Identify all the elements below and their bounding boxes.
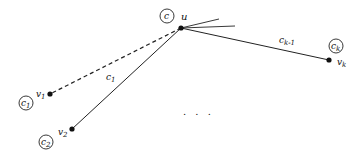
diagram-canvas: c u c1 v1 c2 v2 ck vk c1 ck-1 . . . xyxy=(0,0,361,160)
edge-u-vk xyxy=(181,28,329,60)
edge-u-v2 xyxy=(72,28,181,129)
color-label-vk: ck xyxy=(331,41,340,53)
node-u xyxy=(178,25,183,30)
ellipsis: . . . xyxy=(183,106,214,117)
node-v1 xyxy=(47,91,52,96)
edge-u-v1 xyxy=(50,28,181,94)
edge-label-c1: c1 xyxy=(106,72,116,84)
node-label-v1: v1 xyxy=(36,89,46,101)
edge-label-ck-1: ck-1 xyxy=(279,35,295,47)
node-vk xyxy=(326,57,331,62)
node-label-vk: vk xyxy=(337,57,346,69)
color-label-v2: c2 xyxy=(41,137,51,149)
node-label-u: u xyxy=(181,11,187,22)
node-label-v2: v2 xyxy=(58,127,68,139)
color-label-u: c xyxy=(164,11,169,21)
node-v2 xyxy=(69,126,74,131)
color-label-v1: c1 xyxy=(21,98,31,110)
